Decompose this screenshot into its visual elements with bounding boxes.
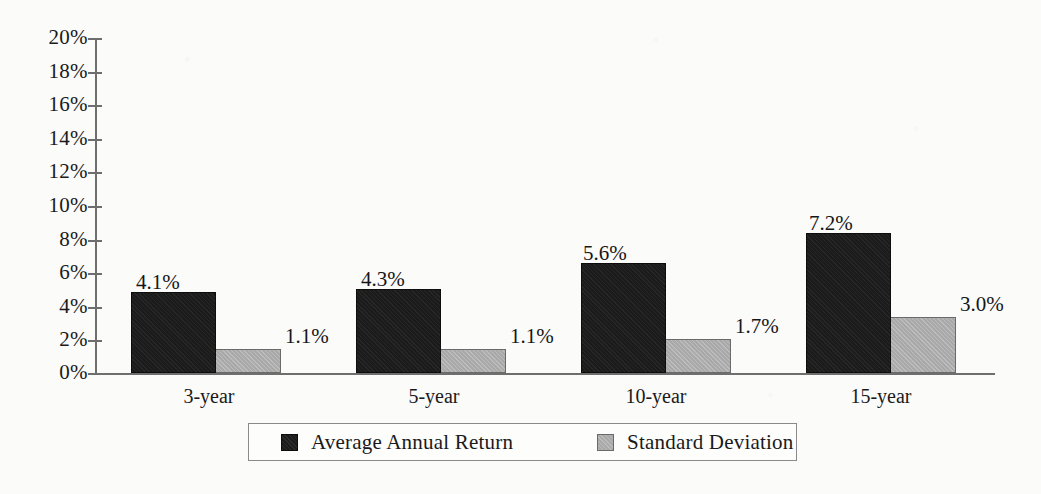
y-tick-20: 20% [88, 38, 102, 40]
y-tick-label-18: 18% [49, 61, 88, 82]
y-tick-18: 18% [88, 72, 102, 74]
x-axis-line [95, 373, 995, 375]
y-tick-16: 16% [88, 105, 102, 107]
legend-entry-average-annual-return[interactable]: Average Annual Return [281, 432, 513, 453]
x-category-label-3-year: 3-year [119, 386, 299, 406]
y-tick-14: 14% [88, 139, 102, 141]
legend-label-standard-deviation: Standard Deviation [627, 432, 793, 453]
y-tick-label-0: 0% [59, 362, 87, 383]
x-category-label-5-year: 5-year [344, 386, 524, 406]
y-tick-10: 10% [88, 206, 102, 208]
bar-value-return-3-year: 4.1% [136, 272, 180, 293]
x-category-label-10-year: 10-year [566, 386, 746, 406]
y-tick-label-14: 14% [49, 128, 88, 149]
bar-value-stdev-10-year: 1.7% [735, 316, 779, 337]
y-tick-label-2: 2% [59, 329, 87, 350]
bar-value-return-5-year: 4.3% [361, 269, 405, 290]
y-tick-8: 8% [88, 240, 102, 242]
y-tick-label-4: 4% [59, 296, 87, 317]
y-tick-4: 4% [88, 307, 102, 309]
y-tick-label-8: 8% [59, 229, 87, 250]
chart-canvas: 20% 18% 16% 14% 12% 10% 8% 6% 4% 2% 0% [0, 0, 1041, 494]
y-tick-label-12: 12% [49, 161, 88, 182]
y-tick-0: 0% [88, 373, 102, 375]
y-tick-label-20: 20% [49, 27, 88, 48]
black-square-icon [281, 434, 298, 451]
plot-area: 20% 18% 16% 14% 12% 10% 8% 6% 4% 2% 0% [95, 38, 995, 374]
legend-entry-standard-deviation[interactable]: Standard Deviation [597, 432, 793, 453]
bar-return-5-year[interactable] [356, 289, 441, 373]
bar-return-10-year[interactable] [581, 263, 666, 373]
x-category-label-15-year: 15-year [791, 386, 971, 406]
bar-value-stdev-15-year: 3.0% [960, 294, 1004, 315]
y-tick-label-10: 10% [49, 195, 88, 216]
bar-value-stdev-5-year: 1.1% [510, 326, 554, 347]
y-tick-label-16: 16% [49, 94, 88, 115]
bar-value-return-15-year: 7.2% [809, 213, 853, 234]
y-tick-12: 12% [88, 172, 102, 174]
bar-value-stdev-3-year: 1.1% [285, 326, 329, 347]
y-tick-6: 6% [88, 273, 102, 275]
bar-value-return-10-year: 5.6% [583, 243, 627, 264]
bar-return-3-year[interactable] [131, 292, 216, 373]
bar-return-15-year[interactable] [806, 233, 891, 373]
y-tick-label-6: 6% [59, 262, 87, 283]
y-tick-2: 2% [88, 340, 102, 342]
chart-legend: Average Annual Return Standard Deviation [248, 423, 797, 461]
legend-label-average-annual-return: Average Annual Return [311, 432, 513, 453]
gray-square-icon [597, 434, 614, 451]
